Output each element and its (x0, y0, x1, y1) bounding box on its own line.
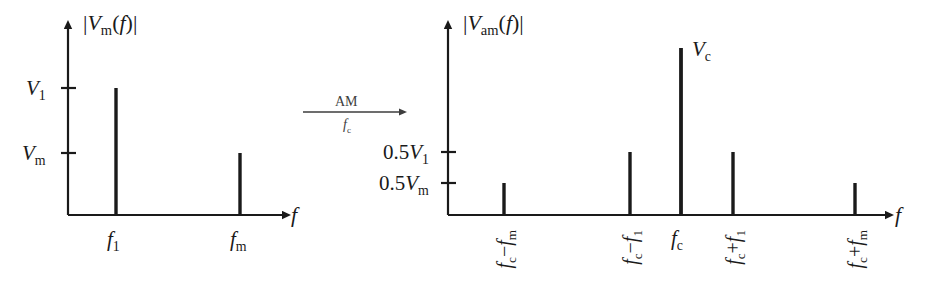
x-tick-label-fc: fc (671, 226, 683, 253)
transform-arrow-group: AM fc (303, 94, 400, 135)
svg-text:fc−fm: fc−fm (493, 229, 519, 268)
transform-arrow-label-below: fc (343, 117, 351, 135)
y-tick-label-vm: Vm (22, 141, 46, 168)
x-tick-label-fc-minus-fm: fc−fm (493, 229, 519, 268)
y-axis-title-modulating: |Vm(f)| (83, 10, 137, 38)
figure-canvas: |Vm(f)| V1 Vm f1 fm f AM (0, 0, 932, 289)
x-axis-title-left: f (291, 202, 300, 227)
x-tick-label-fc-minus-f1: fc−f1 (619, 230, 645, 265)
x-tick-label-fc-plus-f1: fc+f1 (722, 230, 748, 265)
x-tick-label-fm: fm (230, 227, 247, 254)
x-axis-title-right: f (895, 202, 904, 227)
y-axis-title-am: |Vam(f)| (463, 10, 524, 38)
svg-text:fc+fm: fc+fm (844, 229, 870, 268)
peak-annotation-vc: Vc (692, 37, 711, 64)
y-tick-label-v1: V1 (26, 76, 46, 103)
x-tick-label-fc-plus-fm: fc+fm (844, 229, 870, 268)
y-tick-label-half-vm: 0.5Vm (379, 171, 429, 198)
am-spectrum-figure: |Vm(f)| V1 Vm f1 fm f AM (0, 0, 932, 289)
chart-modulating-spectrum: |Vm(f)| V1 Vm f1 fm f (22, 10, 300, 254)
chart-am-spectrum: |Vam(f)| 0.5V1 0.5Vm Vc fc−fm (379, 10, 904, 269)
y-tick-label-half-v1: 0.5V1 (383, 140, 429, 167)
svg-text:fc−f1: fc−f1 (619, 230, 645, 265)
svg-text:fc+f1: fc+f1 (722, 230, 748, 265)
x-tick-label-f1: f1 (107, 227, 120, 254)
transform-arrow-label-above: AM (335, 94, 358, 109)
